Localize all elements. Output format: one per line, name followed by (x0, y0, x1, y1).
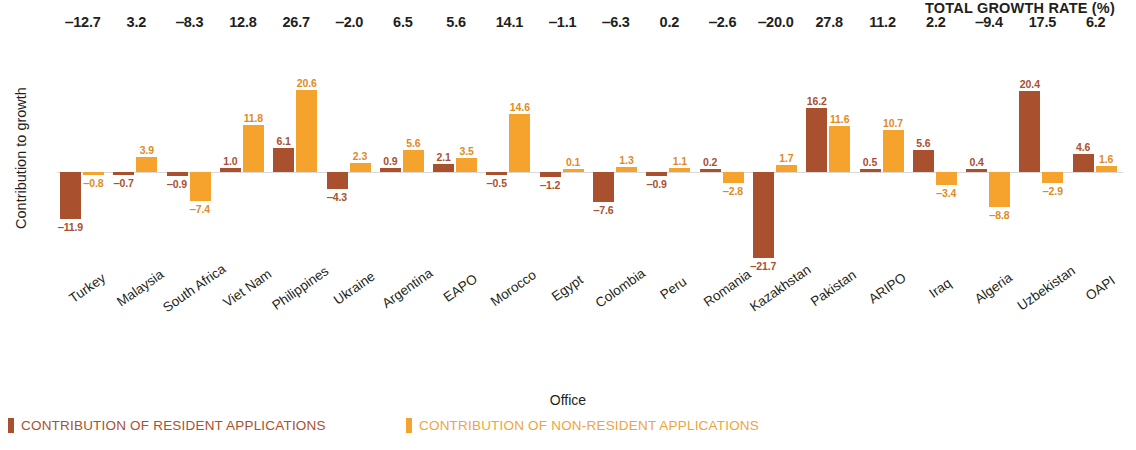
bar-resident[interactable] (700, 169, 721, 172)
bar-nonresident[interactable] (456, 158, 477, 172)
x-axis-title: Office (0, 392, 1136, 408)
bar-group[interactable]: ‒0.73.9 (110, 40, 162, 280)
bar-resident[interactable] (646, 172, 667, 176)
total-growth-value: ‒9.4 (963, 14, 1015, 30)
bar-resident[interactable] (327, 172, 348, 189)
bar-resident[interactable] (753, 172, 774, 258)
bar-value-label: ‒11.9 (45, 221, 97, 233)
bar-nonresident[interactable] (616, 167, 637, 172)
total-growth-value: 26.7 (270, 14, 322, 30)
bar-resident[interactable] (913, 150, 934, 172)
total-growth-rate-row: TOTAL GROWTH RATE (%) ‒12.73.2‒8.312.826… (57, 14, 1123, 36)
x-tick-iraq: Iraq (910, 282, 962, 302)
x-axis-tick-labels: TurkeyMalaysiaSouth AfricaViet NamPhilip… (57, 282, 1123, 372)
bar-nonresident[interactable] (723, 172, 744, 183)
bar-resident[interactable] (486, 172, 507, 175)
legend-label-resident: CONTRIBUTION OF RESIDENT APPLICATIONS (21, 418, 326, 433)
bar-value-label: 16.2 (791, 95, 843, 107)
y-axis-title: Contribution to growth (13, 43, 29, 273)
bar-value-label: 0.2 (684, 156, 736, 168)
bar-resident[interactable] (380, 168, 401, 172)
bar-nonresident[interactable] (989, 172, 1010, 207)
total-growth-value: 6.2 (1070, 14, 1122, 30)
bar-nonresident[interactable] (296, 90, 317, 172)
x-tick-egypt: Egypt (537, 282, 589, 302)
bar-value-label: 4.6 (1057, 141, 1109, 153)
bar-nonresident[interactable] (936, 172, 957, 185)
x-tick-argentina: Argentina (377, 282, 429, 302)
bar-group[interactable]: 0.510.7 (857, 40, 909, 280)
bar-value-label: 5.6 (897, 137, 949, 149)
bar-group[interactable]: ‒21.71.7 (750, 40, 802, 280)
total-growth-value: 14.1 (483, 14, 535, 30)
x-tick-morocco: Morocco (483, 282, 535, 302)
bar-resident[interactable] (273, 148, 294, 172)
bar-value-label: 0.4 (951, 156, 1003, 168)
bar-group[interactable]: ‒11.9‒0.8 (57, 40, 109, 280)
bar-resident[interactable] (167, 172, 188, 176)
bar-nonresident[interactable] (669, 168, 690, 172)
x-tick-turkey: Turkey (57, 282, 109, 302)
bar-value-label: 1.6 (1080, 153, 1132, 165)
x-tick-aripo: ARIPO (857, 282, 909, 302)
bar-group[interactable]: 6.120.6 (270, 40, 322, 280)
bar-value-label: ‒0.9 (631, 178, 683, 190)
y-axis-title-wrapper: Contribution to growth (0, 0, 40, 300)
bar-nonresident[interactable] (1042, 172, 1063, 183)
legend-swatch-icon-nonresident (406, 418, 412, 433)
bar-resident[interactable] (1019, 91, 1040, 172)
total-growth-value: ‒6.3 (590, 14, 642, 30)
bar-group[interactable]: ‒7.61.3 (590, 40, 642, 280)
bar-nonresident[interactable] (243, 125, 264, 172)
bar-group[interactable]: 0.2‒2.8 (697, 40, 749, 280)
legend-item-nonresident: CONTRIBUTION OF NON-RESIDENT APPLICATION… (406, 418, 759, 433)
x-tick-ukraine: Ukraine (324, 282, 376, 302)
bar-group[interactable]: 20.4‒2.9 (1016, 40, 1068, 280)
bar-value-label: ‒0.5 (471, 177, 523, 189)
total-growth-value: 17.5 (1016, 14, 1068, 30)
chart-container: TOTAL GROWTH RATE (%) ‒12.73.2‒8.312.826… (0, 0, 1136, 450)
total-growth-value: 11.2 (857, 14, 909, 30)
legend-swatch-icon-resident (8, 418, 14, 433)
x-tick-peru: Peru (643, 282, 695, 302)
bar-group[interactable]: 0.4‒8.8 (963, 40, 1015, 280)
bar-nonresident[interactable] (136, 157, 157, 172)
bar-group[interactable]: ‒0.514.6 (483, 40, 535, 280)
bar-resident[interactable] (433, 164, 454, 172)
bar-nonresident[interactable] (190, 172, 211, 201)
bar-value-label: ‒0.7 (98, 177, 150, 189)
bar-group[interactable]: 2.13.5 (430, 40, 482, 280)
x-tick-uzbekistan: Uzbekistan (1016, 282, 1068, 302)
total-growth-value: ‒2.0 (324, 14, 376, 30)
total-growth-value: 0.2 (643, 14, 695, 30)
total-growth-value: 5.6 (430, 14, 482, 30)
bar-nonresident[interactable] (83, 172, 104, 175)
bar-resident[interactable] (593, 172, 614, 202)
bar-group[interactable]: 1.011.8 (217, 40, 269, 280)
bar-nonresident[interactable] (1096, 166, 1117, 172)
bar-group[interactable]: ‒1.20.1 (537, 40, 589, 280)
bar-value-label: ‒1.2 (524, 179, 576, 191)
x-tick-viet-nam: Viet Nam (217, 282, 269, 302)
total-growth-value: 2.2 (910, 14, 962, 30)
bar-resident[interactable] (540, 172, 561, 177)
bar-resident[interactable] (113, 172, 134, 175)
total-growth-value: ‒8.3 (164, 14, 216, 30)
bar-value-label: 20.4 (1004, 78, 1056, 90)
bar-group[interactable]: 4.61.6 (1070, 40, 1122, 280)
bar-resident[interactable] (220, 168, 241, 172)
bar-nonresident[interactable] (563, 169, 584, 172)
bar-nonresident[interactable] (776, 165, 797, 172)
total-growth-value: 12.8 (217, 14, 269, 30)
bar-value-label: ‒4.3 (311, 191, 363, 203)
bar-resident[interactable] (966, 169, 987, 172)
bar-nonresident[interactable] (509, 114, 530, 172)
total-growth-value: 6.5 (377, 14, 429, 30)
x-tick-malaysia: Malaysia (110, 282, 162, 302)
x-tick-oapi: OAPI (1070, 282, 1122, 302)
total-growth-value: ‒20.0 (750, 14, 802, 30)
plot-area: ‒11.9‒0.8‒0.73.9‒0.9‒7.41.011.86.120.6‒4… (57, 40, 1123, 280)
total-growth-value: 3.2 (110, 14, 162, 30)
x-tick-kazakhstan: Kazakhstan (750, 282, 802, 302)
bar-resident[interactable] (860, 169, 881, 172)
